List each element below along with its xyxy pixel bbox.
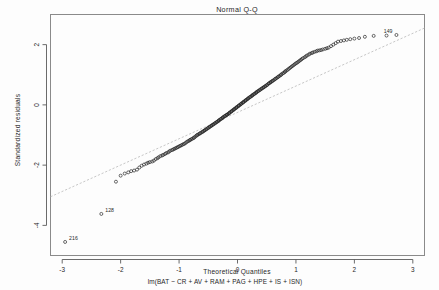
data-point xyxy=(372,34,375,37)
qq-reference-line xyxy=(51,28,425,197)
chart-title: Normal Q-Q xyxy=(216,5,258,14)
data-point xyxy=(395,33,398,36)
y-tick-label: -4 xyxy=(33,222,40,228)
outlier-label: 149 xyxy=(384,28,393,34)
outlier-label: 128 xyxy=(105,207,114,213)
plot-frame xyxy=(51,15,425,256)
chart-subtitle: lm(BAT ~ CR + AV + RAM + PAG + HPE + IS … xyxy=(148,278,303,286)
data-point xyxy=(363,35,366,38)
x-tick-label: -2 xyxy=(118,266,124,273)
data-point xyxy=(358,37,361,40)
x-tick-label: 1 xyxy=(294,266,298,273)
x-axis-title: Theoretical Quantiles xyxy=(203,268,271,276)
data-point xyxy=(100,212,103,215)
data-point xyxy=(114,180,117,183)
y-tick-label: 2 xyxy=(33,42,40,46)
x-tick-label: 3 xyxy=(411,266,415,273)
x-tick-label: -1 xyxy=(176,266,182,273)
data-point xyxy=(133,169,136,172)
data-point xyxy=(130,170,133,173)
data-point xyxy=(119,174,122,177)
x-tick-label: 2 xyxy=(353,266,357,273)
data-point xyxy=(64,240,67,243)
outlier-label: 216 xyxy=(69,235,78,241)
y-tick-label: -2 xyxy=(33,162,40,168)
data-point xyxy=(385,34,388,37)
y-tick-label: 0 xyxy=(33,103,40,107)
normal-qq-plot: 128216149 -3-2-10123 20-2-4 Normal Q-Q T… xyxy=(0,0,439,290)
chart-canvas: 128216149 -3-2-10123 20-2-4 Normal Q-Q T… xyxy=(0,0,439,290)
y-axis: 20-2-4 xyxy=(33,42,47,228)
data-point xyxy=(345,38,348,41)
data-point xyxy=(353,37,356,40)
data-point xyxy=(127,171,130,174)
y-axis-title: Standardized residuals xyxy=(14,93,21,166)
data-point xyxy=(342,39,345,42)
x-tick-label: -3 xyxy=(59,266,65,273)
data-point xyxy=(123,172,126,175)
data-point xyxy=(349,38,352,41)
outlier-labels: 128216149 xyxy=(69,28,392,241)
data-point xyxy=(337,40,340,43)
data-point xyxy=(339,40,342,43)
